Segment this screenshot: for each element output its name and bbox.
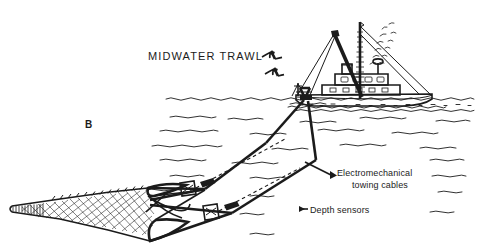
figure-title: MIDWATER TRAWL: [148, 50, 263, 62]
towing-block: [300, 95, 312, 100]
callout-cables-line2: towing cables: [352, 180, 408, 190]
callout-cables-line1: Electromechanical: [337, 168, 412, 178]
midwater-trawl-figure: MIDWATER TRAWL B Electromechanical towin…: [0, 0, 480, 252]
net-headline: [148, 188, 205, 189]
callout-depth-sensors: Depth sensors: [310, 205, 370, 215]
illustration-canvas: MIDWATER TRAWL B Electromechanical towin…: [0, 0, 480, 252]
panel-letter: B: [85, 119, 93, 130]
